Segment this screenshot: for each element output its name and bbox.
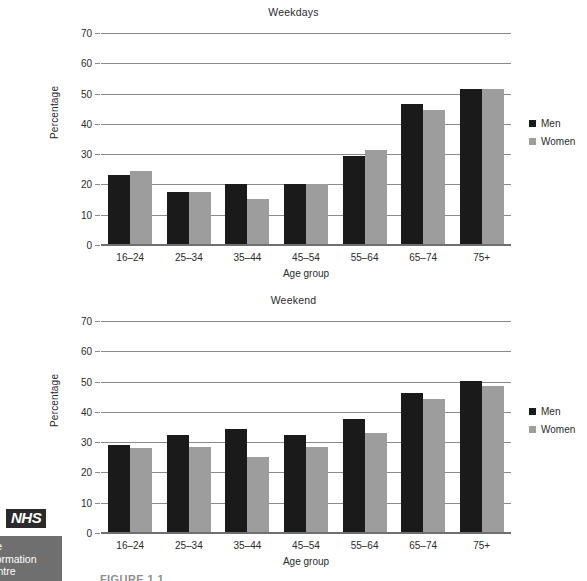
legend-weekdays: MenWomen (529, 118, 587, 154)
bar-men (225, 429, 247, 533)
plot-area: 010203040506070 16–2425–3435–4445–5455–6… (101, 33, 511, 245)
nhs-sub-line-1: The (0, 540, 37, 553)
x-tick-label: 25–34 (175, 252, 203, 263)
nhs-sub-line-3: Centre (0, 565, 37, 578)
y-tick-mark-30 (95, 154, 100, 155)
nhs-logo: NHS (6, 509, 46, 528)
bar-men (108, 175, 130, 245)
y-tick-label-30: 30 (81, 149, 92, 160)
legend-label: Women (541, 136, 575, 147)
y-tick-mark-20 (95, 184, 100, 185)
plot-area: 010203040506070 16–2425–3435–4445–5455–6… (101, 321, 511, 533)
bar-women (482, 89, 504, 245)
bar-women (130, 448, 152, 533)
nhs-information-centre-text: The Information Centre (0, 540, 37, 578)
y-tick-mark-50 (95, 382, 100, 383)
y-tick-label-70: 70 (81, 316, 92, 327)
legend-item-women: Women (529, 136, 587, 147)
bar-women (365, 150, 387, 245)
bar-group: 45–54 (277, 33, 336, 245)
legend-label: Men (541, 406, 560, 417)
nhs-information-centre-box: The Information Centre (0, 536, 62, 581)
y-tick-label-60: 60 (81, 58, 92, 69)
bar-groups: 16–2425–3435–4445–5455–6465–7475+ (101, 33, 511, 245)
bar-women (130, 171, 152, 245)
bar-men (167, 192, 189, 245)
legend-swatch-icon (529, 408, 536, 415)
y-tick-label-50: 50 (81, 88, 92, 99)
bar-group: 16–24 (101, 33, 160, 245)
bar-women (423, 399, 445, 533)
nhs-sub-line-2: Information (0, 553, 37, 566)
y-tick-mark-10 (95, 503, 100, 504)
bar-men (343, 419, 365, 533)
y-tick-mark-0 (95, 245, 100, 246)
x-tick-label: 35–44 (234, 252, 262, 263)
y-tick-label-60: 60 (81, 346, 92, 357)
bar-group: 35–44 (218, 33, 277, 245)
y-tick-label-0: 0 (86, 240, 92, 251)
legend-label: Men (541, 118, 560, 129)
y-tick-mark-10 (95, 215, 100, 216)
x-tick-label: 45–54 (292, 252, 320, 263)
x-axis-line (101, 532, 511, 533)
y-tick-label-30: 30 (81, 437, 92, 448)
y-tick-mark-40 (95, 412, 100, 413)
bar-group: 25–34 (160, 33, 219, 245)
x-tick-label: 65–74 (409, 540, 437, 551)
y-tick-mark-70 (95, 321, 100, 322)
x-tick-label: 25–34 (175, 540, 203, 551)
bar-women (247, 199, 269, 245)
bar-men (460, 89, 482, 245)
bar-women (189, 192, 211, 245)
chart-title: Weekend (0, 294, 587, 306)
x-tick-label: 55–64 (351, 252, 379, 263)
bar-group: 55–64 (335, 321, 394, 533)
bar-women (482, 386, 504, 533)
chart-title: Weekdays (0, 6, 587, 18)
bar-women (189, 447, 211, 533)
y-tick-mark-50 (95, 94, 100, 95)
y-tick-label-20: 20 (81, 179, 92, 190)
bar-men (225, 184, 247, 245)
y-tick-label-70: 70 (81, 28, 92, 39)
legend-item-men: Men (529, 118, 587, 129)
x-tick-label: 55–64 (351, 540, 379, 551)
x-tick-label: 16–24 (116, 252, 144, 263)
y-axis-title: Percentage (49, 374, 60, 427)
bar-men (284, 435, 306, 533)
y-tick-label-40: 40 (81, 118, 92, 129)
bar-women (247, 457, 269, 533)
y-tick-label-50: 50 (81, 376, 92, 387)
nhs-branding: NHS The Information Centre (0, 509, 74, 581)
bar-group: 65–74 (394, 33, 453, 245)
figure-caption: FIGURE 1.1 (100, 573, 164, 581)
legend-swatch-icon (529, 426, 536, 433)
y-tick-mark-30 (95, 442, 100, 443)
y-tick-label-10: 10 (81, 497, 92, 508)
legend-swatch-icon (529, 138, 536, 145)
bar-group: 75+ (452, 321, 511, 533)
legend-swatch-icon (529, 120, 536, 127)
bar-group: 45–54 (277, 321, 336, 533)
x-tick-label: 75+ (473, 252, 490, 263)
bar-groups: 16–2425–3435–4445–5455–6465–7475+ (101, 321, 511, 533)
x-tick-label: 45–54 (292, 540, 320, 551)
bar-men (167, 435, 189, 533)
x-tick-label: 16–24 (116, 540, 144, 551)
figure-root: Weekdays Percentage 010203040506070 16–2… (0, 0, 587, 581)
x-tick-label: 35–44 (234, 540, 262, 551)
bar-group: 16–24 (101, 321, 160, 533)
y-tick-label-20: 20 (81, 467, 92, 478)
bar-men (401, 393, 423, 533)
y-tick-label-0: 0 (86, 528, 92, 539)
x-tick-label: 65–74 (409, 252, 437, 263)
chart-panel-weekdays: Weekdays Percentage 010203040506070 16–2… (0, 0, 587, 290)
bar-men (460, 381, 482, 533)
y-tick-mark-0 (95, 533, 100, 534)
y-tick-label-10: 10 (81, 209, 92, 220)
y-tick-mark-60 (95, 351, 100, 352)
bar-group: 35–44 (218, 321, 277, 533)
bar-women (306, 184, 328, 245)
y-tick-mark-40 (95, 124, 100, 125)
